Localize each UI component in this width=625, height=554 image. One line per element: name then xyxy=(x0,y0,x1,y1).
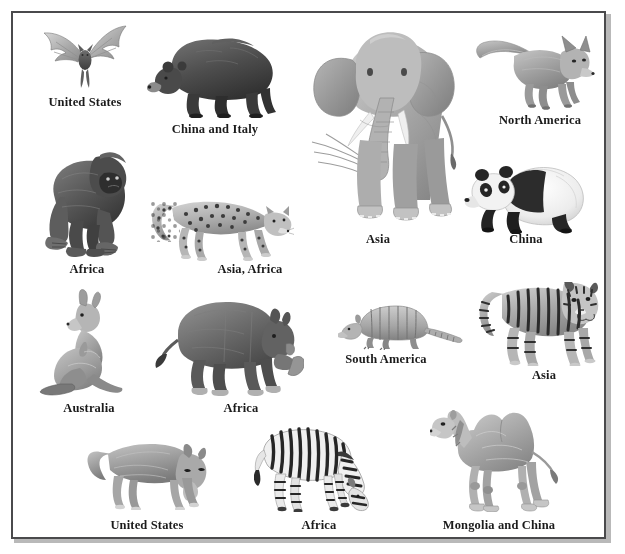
animal-cell-fox[interactable] xyxy=(474,34,596,110)
animal-label-zebra: Africa xyxy=(276,518,362,532)
armadillo-icon xyxy=(338,302,464,350)
illustration-page: United States xyxy=(0,0,625,554)
animal-cell-rhinoceros[interactable] xyxy=(152,292,304,396)
animal-cell-elephant[interactable] xyxy=(308,20,468,232)
animal-label-kangaroo: Australia xyxy=(42,401,136,415)
animal-label-bat: United States xyxy=(30,95,140,109)
animal-label-tiger: Asia xyxy=(504,368,584,382)
animal-label-gorilla: Africa xyxy=(44,262,130,276)
bat-icon xyxy=(38,24,130,96)
animal-label-camel: Mongolia and China xyxy=(436,518,562,532)
fox-icon xyxy=(474,34,596,110)
animal-cell-kangaroo[interactable] xyxy=(38,288,130,398)
rhinoceros-icon xyxy=(152,292,304,396)
animal-label-bear: China and Italy xyxy=(154,122,276,136)
animal-cell-zebra[interactable] xyxy=(254,426,384,512)
panda-icon xyxy=(460,148,588,234)
leopard-icon xyxy=(150,190,294,262)
animal-cell-wolf[interactable] xyxy=(86,436,214,510)
animal-label-fox: North America xyxy=(478,113,602,127)
animal-cell-armadillo[interactable] xyxy=(338,302,464,350)
animal-label-armadillo: South America xyxy=(324,352,448,366)
elephant-icon xyxy=(308,20,468,232)
animal-label-leopard: Asia, Africa xyxy=(198,262,302,276)
wolf-icon xyxy=(86,436,214,510)
zebra-icon xyxy=(254,426,384,512)
animal-label-elephant: Asia xyxy=(338,232,418,246)
camel-icon xyxy=(430,400,560,512)
animal-cell-panda[interactable] xyxy=(460,148,588,234)
animal-cell-bat[interactable] xyxy=(38,24,130,96)
animal-plate: United States xyxy=(0,0,625,554)
animal-cell-camel[interactable] xyxy=(430,400,560,512)
animal-label-wolf: United States xyxy=(92,518,202,532)
kangaroo-icon xyxy=(38,288,130,398)
bear-icon xyxy=(146,28,282,118)
animal-label-rhinoceros: Africa xyxy=(198,401,284,415)
animal-cell-leopard[interactable] xyxy=(150,190,294,262)
animal-cell-bear[interactable] xyxy=(146,28,282,118)
gorilla-icon xyxy=(38,145,132,259)
animal-cell-tiger[interactable] xyxy=(478,282,600,366)
animal-cell-gorilla[interactable] xyxy=(38,145,132,259)
animal-label-panda: China xyxy=(490,232,562,246)
tiger-icon xyxy=(478,282,600,366)
